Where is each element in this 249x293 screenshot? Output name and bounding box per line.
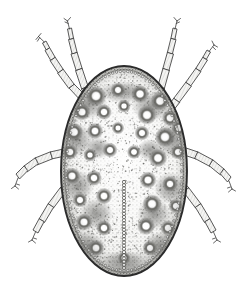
- illustration-canvas: Black and white stippled scientific illu…: [0, 0, 249, 293]
- mite-illustration: [0, 0, 249, 293]
- idiosoma: [59, 66, 189, 276]
